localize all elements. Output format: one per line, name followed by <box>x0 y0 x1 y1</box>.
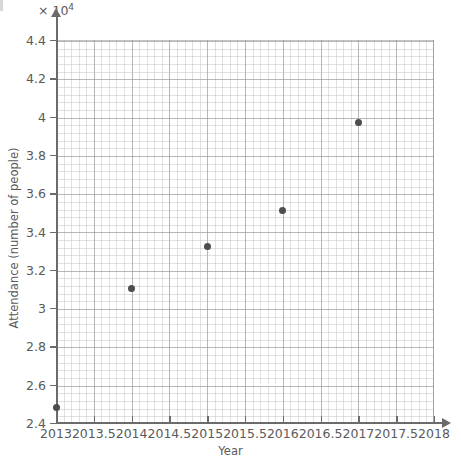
x-axis-tick <box>56 416 57 422</box>
y-axis-line <box>56 14 58 423</box>
x-axis-tick-label: 2018 <box>418 426 450 441</box>
x-axis-tick <box>358 416 359 422</box>
y-axis-tick-label: 4.4 <box>0 33 46 48</box>
y-axis-tick <box>50 308 56 309</box>
y-axis-tick <box>50 385 56 386</box>
y-axis-tick <box>50 117 56 118</box>
x-axis-tick <box>283 416 284 422</box>
data-point <box>53 404 60 411</box>
y-axis-tick <box>50 155 56 156</box>
scatter-chart-figure: × 104 2.42.62.833.23.43.63.844.24.4 2013… <box>0 0 461 457</box>
y-axis-tick-label: 2.4 <box>0 416 46 431</box>
y-axis-tick <box>50 78 56 79</box>
x-axis-tick-label: 2016.5 <box>299 426 343 441</box>
x-axis-tick-label: 2017.5 <box>374 426 418 441</box>
x-axis-tick <box>396 416 397 422</box>
x-axis-tick-label: 2013 <box>40 426 72 441</box>
y-axis-tick <box>50 232 56 233</box>
y-axis-tick <box>50 423 56 424</box>
gridline-gap-artifact <box>258 384 276 386</box>
y-axis-tick <box>50 270 56 271</box>
x-axis-tick <box>321 416 322 422</box>
y-axis-tick <box>50 40 56 41</box>
x-axis-tick <box>169 416 170 422</box>
x-axis-title: Year <box>0 444 461 457</box>
x-axis-tick <box>132 416 133 422</box>
x-axis-tick <box>94 416 95 422</box>
y-axis-tick <box>50 193 56 194</box>
y-axis-tick-label: 4.2 <box>0 71 46 86</box>
y-axis-tick-label: 2.8 <box>0 339 46 354</box>
x-axis-tick <box>245 416 246 422</box>
y-axis-tick-label: 4 <box>0 109 46 124</box>
plot-area <box>56 40 434 423</box>
x-axis-tick-label: 2014 <box>116 426 148 441</box>
x-axis-tick-label: 2015 <box>191 426 223 441</box>
x-axis-tick-label: 2013.5 <box>72 426 116 441</box>
y-axis-multiplier-exponent: 4 <box>68 2 74 12</box>
x-axis-tick-label: 2016 <box>267 426 299 441</box>
y-axis-tick-label: 2.6 <box>0 377 46 392</box>
y-axis-title: Attendance (number of people) <box>7 138 21 338</box>
x-axis-tick <box>434 416 435 422</box>
y-axis-tick <box>50 346 56 347</box>
data-point <box>355 119 362 126</box>
x-axis-tick-label: 2015.5 <box>223 426 267 441</box>
y-axis-arrow-icon <box>51 8 61 17</box>
x-axis-tick <box>207 416 208 422</box>
corner-artifact <box>0 0 3 11</box>
x-axis-tick-label: 2014.5 <box>148 426 192 441</box>
x-axis-line <box>56 422 444 424</box>
x-axis-tick-label: 2017 <box>342 426 374 441</box>
data-point <box>204 243 211 250</box>
